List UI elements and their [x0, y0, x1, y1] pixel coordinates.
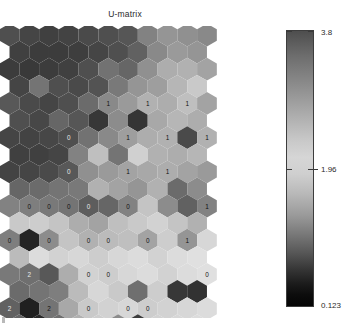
colorbar-max-label: 3.8 — [321, 28, 332, 37]
colorbar-tick-mid-outer — [314, 169, 318, 170]
hexagon-canvas[interactable]: 1110111011000001000001200022000220000 — [0, 26, 250, 318]
colorbar-tick-top-right — [308, 31, 313, 32]
colorbar: 3.8 1.96 0.123 — [286, 30, 353, 315]
colorbar-mid-label: 1.96 — [321, 165, 337, 174]
corner-artifact — [2, 317, 5, 323]
colorbar-tick-top-left — [287, 31, 292, 32]
colorbar-tick-mid-right — [308, 169, 313, 170]
colorbar-tick-mid-left — [287, 169, 292, 170]
u-matrix-figure: U-matrix 1110111011000001000001200022000… — [0, 0, 353, 329]
page-title: U-matrix — [0, 9, 250, 19]
hexagonal-som-grid[interactable]: 1110111011000001000001200022000220000 — [0, 26, 250, 318]
colorbar-min-label: 0.123 — [321, 301, 341, 310]
